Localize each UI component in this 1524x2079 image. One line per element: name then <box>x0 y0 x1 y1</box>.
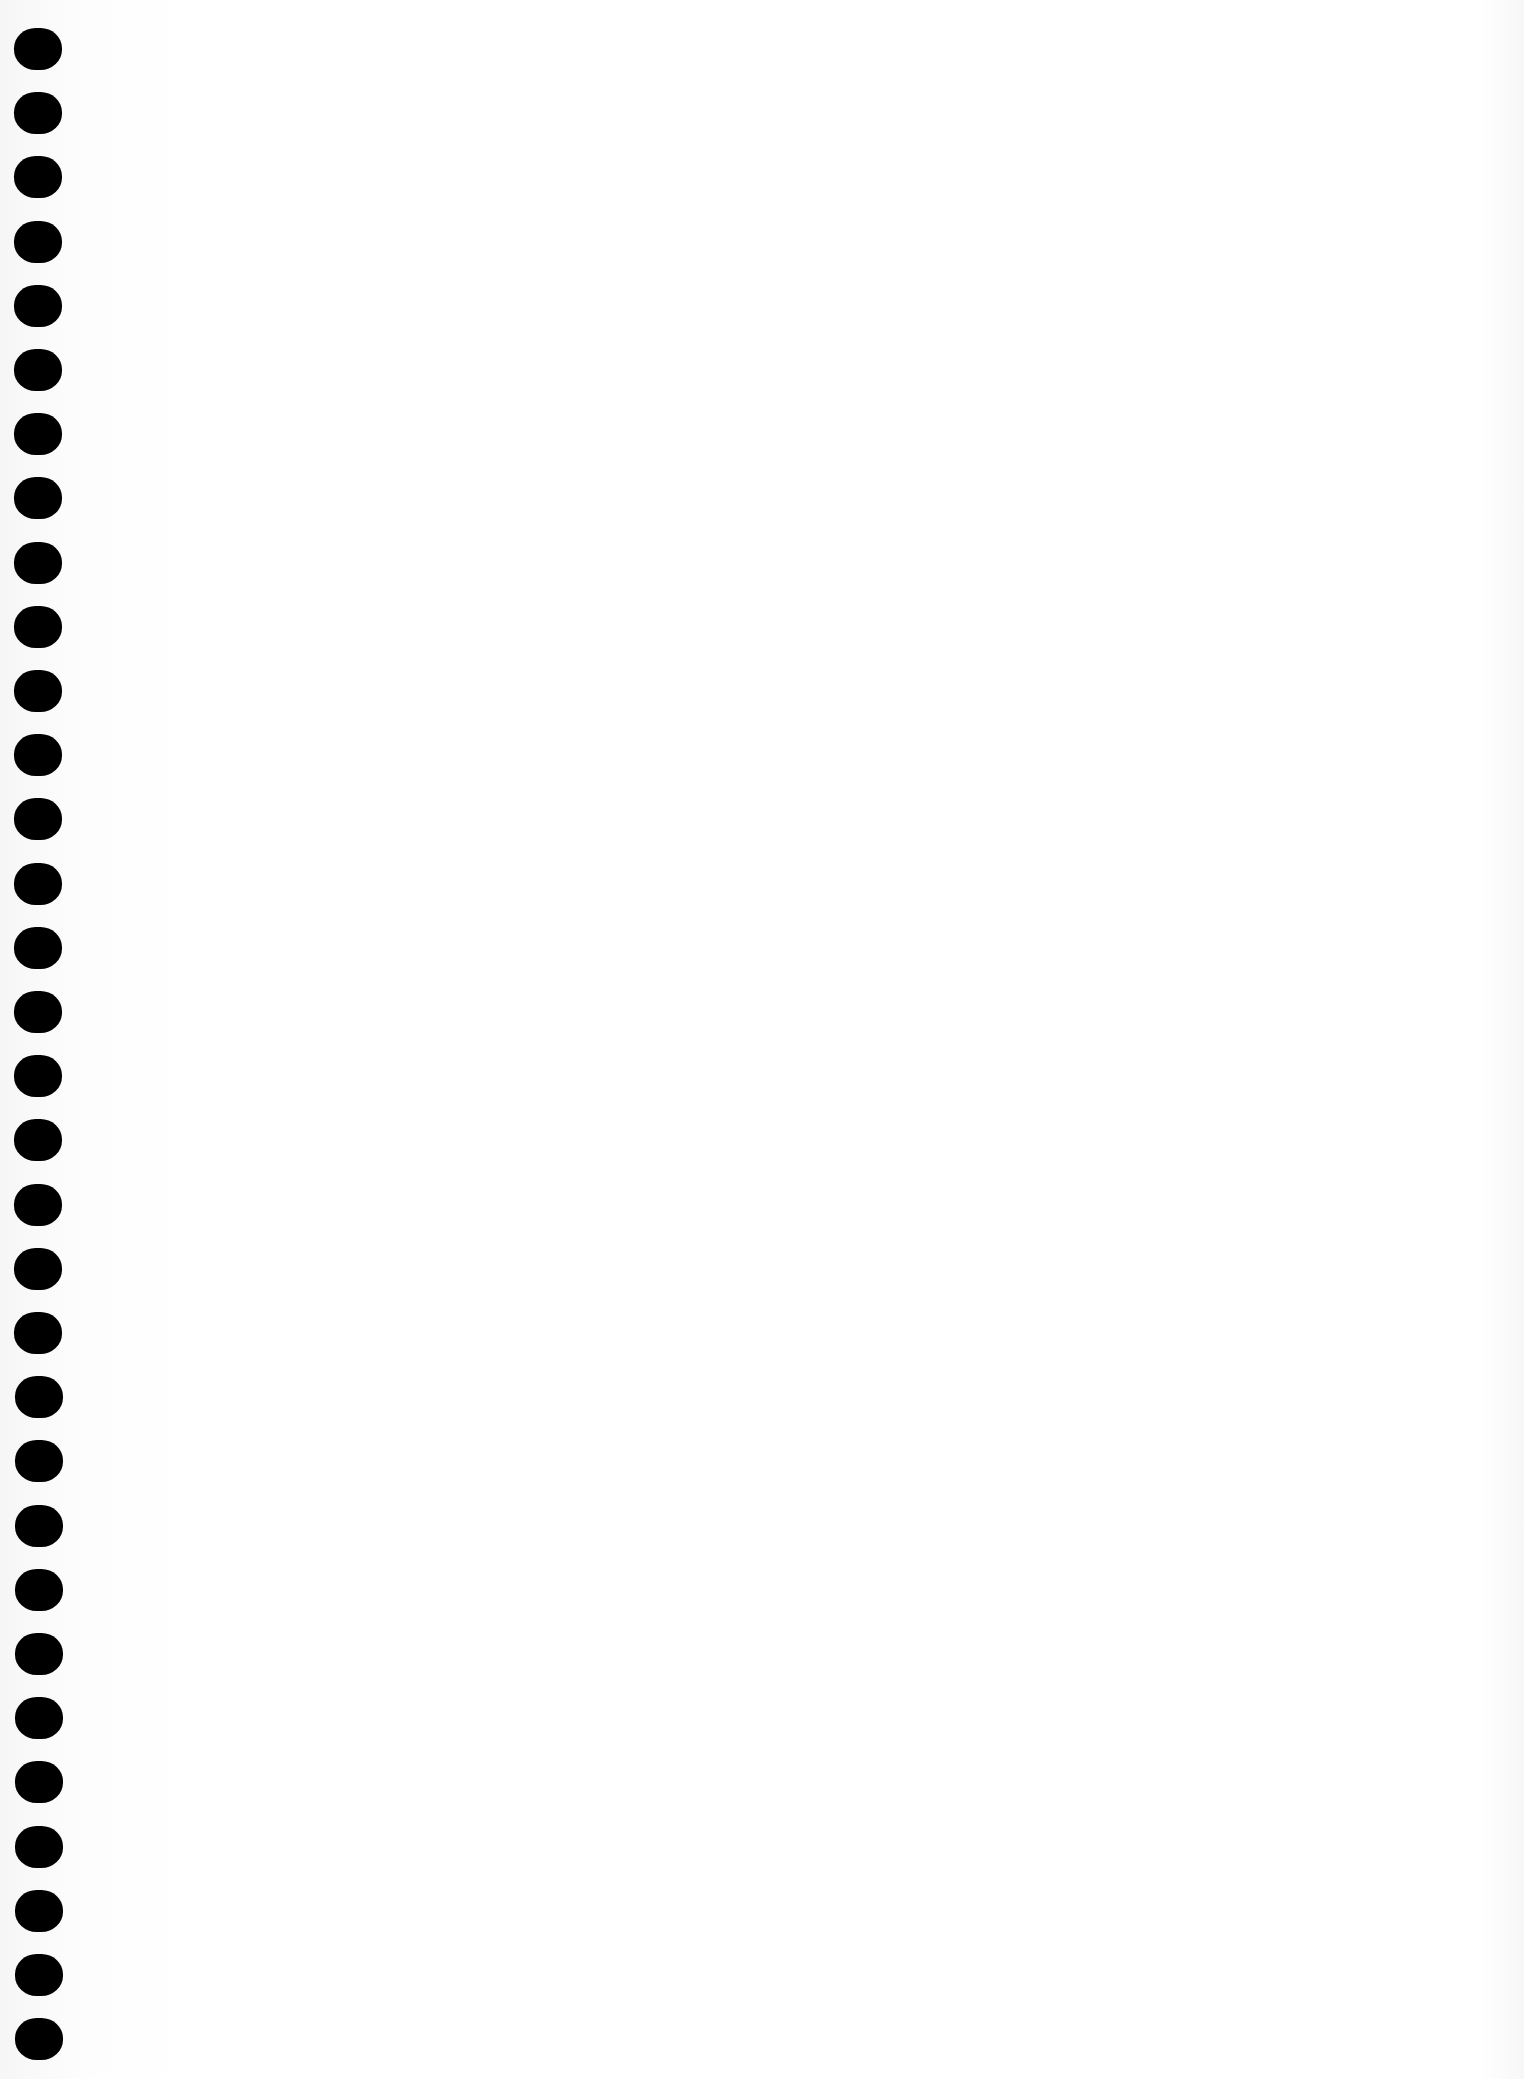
binding-hole <box>14 1055 62 1097</box>
binding-hole <box>14 1312 62 1354</box>
binding-hole <box>14 477 62 519</box>
binding-hole <box>14 1119 62 1161</box>
binding-hole <box>15 1633 63 1675</box>
binding-hole <box>15 1826 63 1868</box>
binding-hole <box>14 413 62 455</box>
binding-hole <box>14 863 62 905</box>
binding-hole <box>15 1569 63 1611</box>
binding-hole <box>14 1248 62 1290</box>
binding-hole <box>14 1184 62 1226</box>
binding-hole <box>15 1505 63 1547</box>
binding-hole <box>14 92 62 134</box>
binding-hole <box>15 1761 63 1803</box>
binding-hole <box>14 670 62 712</box>
binding-hole <box>15 1697 63 1739</box>
binding-hole <box>14 927 62 969</box>
spiral-binding-holes <box>0 0 80 2079</box>
binding-hole <box>14 734 62 776</box>
binding-hole <box>14 542 62 584</box>
binding-hole <box>14 156 62 198</box>
binding-hole <box>14 285 62 327</box>
binding-hole <box>14 28 62 70</box>
binding-hole <box>15 1890 63 1932</box>
binding-hole <box>15 1440 63 1482</box>
binding-hole <box>14 349 62 391</box>
binding-hole <box>15 1954 63 1996</box>
binding-hole <box>14 991 62 1033</box>
binding-hole <box>14 221 62 263</box>
binding-hole <box>15 2018 63 2060</box>
binding-hole <box>14 798 62 840</box>
binding-hole <box>15 1376 63 1418</box>
notebook-page <box>0 0 1524 2079</box>
binding-hole <box>14 606 62 648</box>
